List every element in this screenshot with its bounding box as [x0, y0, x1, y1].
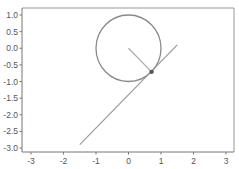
y-tick-label: 1.0: [6, 10, 18, 20]
x-tick-label: 0: [126, 156, 131, 166]
y-tick-label: -1.0: [3, 77, 18, 87]
x-tick-label: 2: [191, 156, 196, 166]
x-axis: -3-2-10123: [27, 152, 228, 166]
y-tick-label: -0.5: [3, 60, 18, 70]
y-tick-label: -2.5: [3, 126, 18, 136]
tangent-line: [80, 45, 178, 145]
y-tick-label: -3.0: [3, 143, 18, 153]
y-tick-label: 0.0: [6, 43, 18, 53]
x-tick-label: -2: [60, 156, 68, 166]
y-tick-label: -2.0: [3, 110, 18, 120]
y-tick-label: 0.5: [6, 27, 18, 37]
x-tick-label: 3: [224, 156, 229, 166]
chart: 1.00.50.0-0.5-1.0-1.5-2.0-2.5-3.0 -3-2-1…: [0, 0, 239, 169]
y-tick-label: -1.5: [3, 93, 18, 103]
radius-line: [129, 48, 152, 72]
tangent-point-marker: [149, 70, 153, 74]
y-axis: 1.00.50.0-0.5-1.0-1.5-2.0-2.5-3.0: [3, 10, 22, 153]
x-tick-label: -1: [92, 156, 100, 166]
x-tick-label: 1: [159, 156, 164, 166]
x-tick-label: -3: [27, 156, 35, 166]
plot-area: [80, 15, 178, 145]
